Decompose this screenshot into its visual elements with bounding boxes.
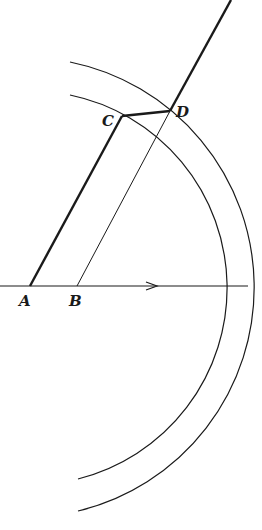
label-a: A (17, 292, 31, 310)
line-bd (77, 111, 170, 286)
line-ac (30, 116, 122, 286)
label-d: D (175, 103, 189, 121)
geometry-diagram: A B C D (0, 0, 262, 530)
label-b: B (68, 292, 82, 310)
label-c: C (102, 112, 114, 130)
line-d-extension (170, 0, 231, 111)
inner-arc (70, 95, 227, 479)
line-cd (122, 111, 170, 116)
